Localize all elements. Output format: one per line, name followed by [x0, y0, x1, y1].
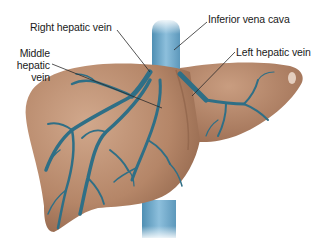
- label-left-hepatic-vein: Left hepatic vein: [236, 46, 311, 58]
- label-right-hepatic-vein: Right hepatic vein: [30, 21, 112, 33]
- liver-illustration: [0, 0, 324, 248]
- label-middle-line1: Middle: [10, 47, 50, 59]
- label-middle-hepatic-vein: Middle hepatic vein: [10, 47, 50, 83]
- label-middle-line3: vein: [10, 71, 50, 83]
- label-inferior-vena-cava: Inferior vena cava: [208, 13, 290, 25]
- label-middle-line2: hepatic: [10, 59, 50, 71]
- liver-diagram: Right hepatic vein Inferior vena cava Mi…: [0, 0, 324, 248]
